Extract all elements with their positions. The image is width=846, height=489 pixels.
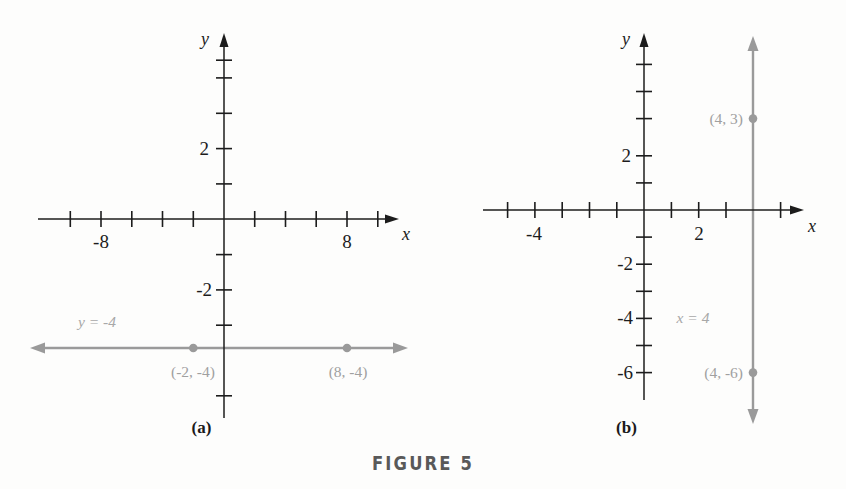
coordinate-plane-b: y x -4 2 2 -2 -4 -6 x = 4 (4, 3) (4, -6) bbox=[423, 0, 846, 440]
y-tick-label-2: 2 bbox=[200, 138, 210, 159]
figure-label: FIGURE 5 bbox=[59, 452, 787, 474]
x-tick-label-2: 2 bbox=[694, 223, 704, 244]
data-point-b-2 bbox=[749, 368, 758, 377]
data-point-b-1 bbox=[749, 114, 758, 123]
arrowhead-right-icon bbox=[393, 343, 408, 354]
point-label-a-1: (-2, -4) bbox=[171, 363, 215, 381]
y-tick-label-neg4: -4 bbox=[617, 307, 633, 328]
point-label-b-2: (4, -6) bbox=[704, 364, 743, 382]
y-tick-label-neg2: -2 bbox=[196, 279, 212, 300]
x-axis-label-a: x bbox=[401, 224, 410, 244]
line-x-equals-4 bbox=[748, 36, 759, 424]
x-tick-label-neg8: -8 bbox=[93, 231, 109, 252]
arrowhead-up-icon bbox=[748, 36, 759, 51]
arrowhead-left-icon bbox=[30, 343, 45, 354]
x-tick-label-neg4: -4 bbox=[526, 223, 542, 244]
y-axis-arrowhead-icon bbox=[220, 33, 229, 47]
x-axis-arrowhead-icon bbox=[790, 206, 804, 215]
panel-caption-b: (b) bbox=[415, 418, 838, 438]
equation-label-a: y = -4 bbox=[76, 313, 116, 330]
y-axis-b bbox=[636, 33, 652, 400]
y-tick-label-neg6: -6 bbox=[617, 362, 633, 383]
x-axis-a bbox=[38, 211, 399, 227]
x-tick-label-8: 8 bbox=[342, 231, 352, 252]
y-tick-label-neg2: -2 bbox=[617, 253, 633, 274]
x-axis-label-b: x bbox=[807, 216, 816, 236]
y-tick-label-2: 2 bbox=[622, 145, 632, 166]
equation-label-b: x = 4 bbox=[676, 309, 710, 326]
graph-panel-a: y x -8 8 2 -2 y = -4 (-2, -4) (8, -4) (a… bbox=[0, 0, 423, 440]
coordinate-plane-a: y x -8 8 2 -2 y = -4 (-2, -4) (8, -4) bbox=[0, 0, 423, 440]
panel-caption-a: (a) bbox=[0, 418, 413, 438]
point-label-a-2: (8, -4) bbox=[329, 363, 368, 381]
figure-5-root: y x -8 8 2 -2 y = -4 (-2, -4) (8, -4) (a… bbox=[0, 0, 846, 489]
data-point-a-2 bbox=[343, 344, 352, 353]
point-label-b-1: (4, 3) bbox=[709, 110, 743, 128]
y-axis-label-a: y bbox=[199, 29, 209, 49]
y-axis-arrowhead-icon bbox=[640, 33, 649, 47]
graph-panel-b: y x -4 2 2 -2 -4 -6 x = 4 (4, 3) (4, -6)… bbox=[423, 0, 846, 440]
x-axis-arrowhead-icon bbox=[385, 215, 399, 224]
y-axis-label-b: y bbox=[620, 29, 630, 49]
y-axis-a bbox=[216, 33, 232, 418]
data-point-a-1 bbox=[189, 344, 198, 353]
